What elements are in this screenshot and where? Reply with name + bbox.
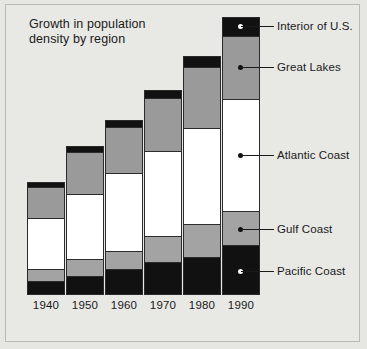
segment-gulf-coast-1950 (67, 260, 103, 277)
legend-label-great-lakes: Great Lakes (277, 61, 341, 73)
x-axis-label-1960: 1960 (105, 299, 143, 311)
segment-great-lakes-1950 (67, 153, 103, 195)
bar-1970 (144, 90, 182, 295)
segment-gulf-coast-1960 (106, 252, 142, 271)
segment-pacific-coast-1980 (184, 258, 220, 294)
legend-label-pacific-coast: Pacific Coast (277, 265, 345, 277)
legend-label-interior-of-us: Interior of U.S. (277, 20, 353, 32)
segment-great-lakes-1940 (28, 188, 64, 219)
segment-pacific-coast-1970 (145, 263, 181, 294)
segment-gulf-coast-1940 (28, 270, 64, 282)
segment-atlantic-coast-1950 (67, 195, 103, 260)
legend-label-atlantic-coast: Atlantic Coast (277, 149, 349, 161)
segment-gulf-coast-1970 (145, 237, 181, 264)
bar-1960 (105, 120, 143, 295)
bar-1980 (183, 56, 221, 295)
x-axis-label-1980: 1980 (183, 299, 221, 311)
chart-figure: Growth in population density by region 1… (0, 0, 367, 349)
x-axis-label-1950: 1950 (66, 299, 104, 311)
x-axis-label-1940: 1940 (27, 299, 65, 311)
legend-leader-line-pacific-coast (241, 271, 274, 272)
legend-leader-line-atlantic-coast (241, 155, 274, 156)
segment-atlantic-coast-1980 (184, 129, 220, 224)
segment-atlantic-coast-1960 (106, 174, 142, 251)
segment-pacific-coast-1940 (28, 282, 64, 294)
segment-pacific-coast-1960 (106, 270, 142, 294)
legend-leader-line-interior-of-us (241, 26, 274, 27)
segment-gulf-coast-1980 (184, 225, 220, 259)
segment-interior-of-us-1980 (184, 57, 220, 68)
legend-label-gulf-coast: Gulf Coast (277, 223, 332, 235)
legend-leader-line-gulf-coast (241, 229, 274, 230)
segment-great-lakes-1960 (106, 128, 142, 174)
segment-pacific-coast-1950 (67, 277, 103, 294)
segment-interior-of-us-1970 (145, 91, 181, 99)
x-axis-label-1990: 1990 (222, 299, 260, 311)
segment-atlantic-coast-1970 (145, 152, 181, 236)
x-axis-label-1970: 1970 (144, 299, 182, 311)
segment-great-lakes-1970 (145, 99, 181, 152)
segment-great-lakes-1980 (184, 68, 220, 129)
segment-atlantic-coast-1940 (28, 219, 64, 270)
legend-leader-line-great-lakes (241, 67, 274, 68)
segment-interior-of-us-1960 (106, 121, 142, 128)
bar-1950 (66, 146, 104, 295)
bar-1940 (27, 182, 65, 295)
plot-area: 1940 1950 1960 1970 (0, 0, 367, 349)
